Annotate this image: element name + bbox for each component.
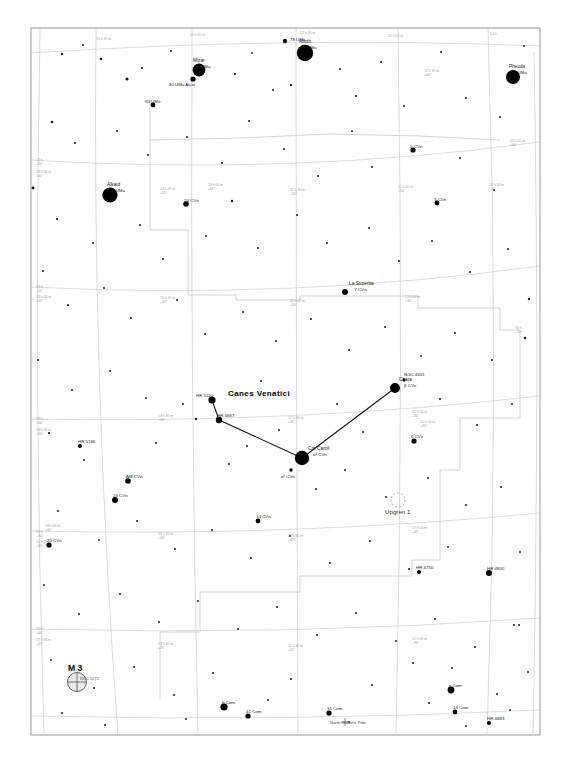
dso-label-m3: M 3: [68, 663, 82, 673]
coordinate-tick-label: 13 h 30 m+50°: [36, 429, 51, 436]
coordinate-tick-label: 12 h 00 m+45°: [420, 421, 435, 428]
coordinate-tick-label: 13 h+55°: [36, 286, 43, 293]
star-designation: HR 4867: [217, 413, 234, 418]
coordinate-dec: +50°: [160, 301, 175, 305]
star-designation: NGC 4631: [404, 372, 425, 377]
coordinate-tick-label: 13 h+60°: [36, 159, 43, 166]
star-designation: HR 4800: [487, 566, 504, 571]
coordinate-tick-label: 13 h+40°: [36, 628, 43, 635]
coordinate-tick-label: 14 h 00 m+55°: [489, 184, 504, 191]
coordinate-dec: +45°: [420, 425, 435, 429]
star-designation: AM CVn: [126, 474, 142, 479]
star-designation: 31 Com: [327, 706, 342, 711]
coordinate-dec: +55°: [489, 188, 504, 192]
coordinate-tick-label: 12 h 00 m: [388, 35, 403, 39]
coordinate-tick-label: 13 h 00 m: [190, 34, 205, 38]
coordinate-dec: +45°: [288, 421, 303, 425]
coordinate-dec: +55°: [160, 192, 175, 196]
coordinate-tick-label: 13 h 00 m+55°: [208, 184, 223, 191]
coordinate-tick-label: 13 h+50°: [36, 418, 43, 425]
constellation-label: Canes Venatici: [228, 389, 290, 398]
coordinate-dec: +60°: [36, 175, 51, 179]
coordinate-tick-label: 14 h 00 m+60°: [510, 140, 525, 147]
coordinate-dec: +55°: [208, 188, 223, 192]
coordinate-tick-label: 12 h 00 m+50°: [405, 296, 420, 303]
coordinate-dec: +55°: [36, 290, 43, 294]
coordinate-ra: 13 h 00 m: [190, 34, 205, 38]
star-designation: ε UMa: [304, 45, 316, 50]
star-designation: 14 CVn: [256, 514, 271, 519]
coordinate-dec: +60°: [510, 144, 525, 148]
star-designation: 14 Com: [453, 705, 468, 710]
coordinate-tick-label: 13 h 30 m+45°: [158, 415, 173, 422]
star-designation: 5 CVn: [410, 144, 422, 149]
coordinate-dec: +50°: [515, 331, 522, 335]
coordinate-tick-label: 12 h 30 m: [300, 32, 315, 36]
coordinate-dec: +55°: [290, 193, 305, 197]
coordinate-dec: +40°: [45, 529, 60, 533]
star-designation: 78 UMa: [290, 37, 305, 42]
coordinate-dec: +35°: [288, 649, 303, 653]
coordinate-dec: +50°: [36, 422, 43, 426]
star-designation: HR 4883: [487, 716, 504, 721]
coordinate-tick-label: 12 h 30 m+55°: [290, 189, 305, 196]
coordinate-dec: +45°: [36, 535, 43, 539]
star-designation: γ Com: [449, 683, 462, 688]
coordinate-tick-label: 12 h 00 m+35°: [412, 638, 427, 645]
star-designation: α¹ CVn: [281, 474, 295, 479]
coordinate-dec: +40°: [36, 643, 51, 647]
coordinate-dec: +50°: [290, 304, 305, 308]
star-designation: 41 Com: [246, 709, 261, 714]
coordinate-ra: 13 h 30 m: [96, 38, 111, 42]
coordinate-dec: +45°: [158, 419, 173, 423]
coordinate-tick-label: 13 h 30 m: [96, 38, 111, 42]
coordinate-dec: +60°: [424, 74, 439, 78]
coordinate-tick-label: 12 h 30 m+35°: [288, 645, 303, 652]
coordinate-tick-label: 14 h: [490, 33, 497, 37]
star-proper-name: Cor Caroli: [308, 446, 330, 451]
coordinate-tick-label: 12 h 00 m+55°: [398, 186, 413, 193]
coordinate-dec: +40°: [158, 537, 173, 541]
coordinate-tick-label: 12 h 30 m+45°: [288, 417, 303, 424]
star-designation: γ UMa: [514, 70, 527, 75]
dso-sublabel-m3: NGC 5272: [80, 676, 99, 681]
coordinate-tick-label: 13 h 30 m+40°: [158, 533, 173, 540]
star-designation: 6 CVn: [411, 434, 423, 439]
star-designation: 83 UMa: [145, 99, 160, 104]
star-designation: η UMa: [112, 188, 125, 193]
coordinate-ra: 12 h 30 m: [300, 32, 315, 36]
coordinate-tick-label: 14 h+50°: [515, 327, 522, 334]
coordinate-ra: 14 h: [490, 33, 497, 37]
star-proper-name: La Superba: [349, 281, 374, 286]
star-designation: HR 5186: [78, 439, 95, 444]
star-designation: α² CVn: [313, 452, 327, 457]
star-chart: Canes Venatici M 3 NGC 5272 Upgren 1 Nor…: [0, 0, 571, 770]
coordinate-dec: +35°: [158, 647, 173, 651]
coordinate-dec: +35°: [412, 642, 427, 646]
coordinate-dec: +40°: [36, 632, 43, 636]
coordinate-tick-label: 13 h 30 m+35°: [158, 643, 173, 650]
star-proper-name: Chara: [399, 377, 412, 382]
star-proper-name: Mizar: [193, 58, 205, 63]
star-designation: HR 4750: [416, 565, 433, 570]
marker-label-north-galactic-pole: North Galactic Pole: [330, 720, 366, 725]
coordinate-dec: +50°: [405, 300, 420, 304]
coordinate-tick-label: 13 h 30 m+60°: [36, 171, 51, 178]
star-designation: Y CVn: [354, 287, 367, 292]
coordinate-dec: +40°: [288, 539, 303, 543]
coordinate-tick-label: 12 h 00 m+45°: [412, 411, 427, 418]
coordinate-tick-label: 13 h 30 m+55°: [160, 188, 175, 195]
coordinate-dec: +45°: [36, 545, 51, 549]
coordinate-dec: +55°: [36, 300, 51, 304]
coordinate-dec: +55°: [398, 190, 413, 194]
label-layer: Canes Venatici M 3 NGC 5272 Upgren 1 Nor…: [0, 0, 571, 770]
star-proper-name: Phecda: [509, 64, 525, 69]
coordinate-dec: +45°: [412, 415, 427, 419]
star-designation: β CVn: [404, 383, 416, 388]
star-designation: HR 5110: [196, 393, 213, 398]
star-designation: 80 UMa Alcor: [169, 82, 195, 87]
dso-label-upgren1: Upgren 1: [385, 508, 410, 515]
coordinate-tick-label: 12 h 30 m+60°: [424, 70, 439, 77]
star-designation: ζ UMa: [198, 64, 210, 69]
star-designation: 24 CVn: [184, 198, 199, 203]
